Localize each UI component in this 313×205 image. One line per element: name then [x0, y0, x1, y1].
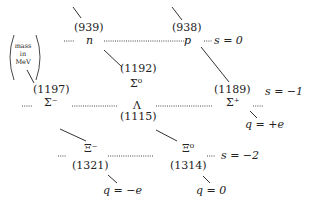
lambda-mass: (1115): [120, 111, 157, 122]
xi0-symbol: Ξ⁰: [182, 143, 194, 154]
charge-minus: q = −e: [103, 185, 142, 196]
p-symbol: p: [184, 35, 191, 46]
sigma-minus-mass: (1197): [33, 84, 70, 95]
n-symbol: n: [86, 35, 93, 46]
p-mass: (938): [172, 22, 202, 33]
note-line-1: mass: [6, 42, 40, 50]
strangeness-minus-2: s = −2: [221, 150, 259, 161]
sigma-minus-symbol: Σ⁻: [44, 97, 58, 108]
n-mass: (939): [74, 22, 104, 33]
sigma-plus-symbol: Σ⁺: [226, 97, 240, 108]
xi0-mass: (1314): [170, 160, 207, 171]
note-line-3: MeV: [6, 58, 40, 66]
note-line-2: in: [6, 50, 40, 58]
strangeness-minus-1: s = −1: [265, 86, 303, 97]
xi-minus-symbol: Ξ⁻: [84, 143, 98, 154]
mass-unit-note: mass in MeV: [6, 34, 40, 80]
charge-zero: q = 0: [196, 185, 226, 196]
sigma0-mass: (1192): [120, 63, 157, 74]
charge-plus: q = +e: [245, 119, 284, 130]
xi-minus-mass: (1321): [72, 160, 109, 171]
sigma0-symbol: Σ⁰: [130, 78, 142, 89]
sigma-plus-mass: (1189): [214, 84, 251, 95]
strangeness-0: s = 0: [214, 35, 243, 46]
